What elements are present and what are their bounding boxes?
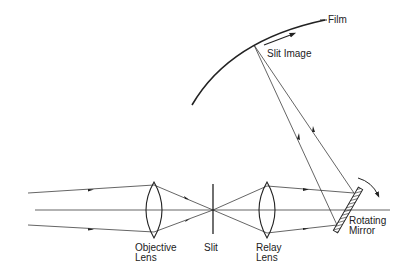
objective-lens-label-line2: Lens [135,253,157,263]
slit-image-label: Slit Image [267,49,311,59]
ray-arrowheads [88,126,315,231]
incoming-rays [28,45,354,233]
film-curve [192,20,325,105]
rotating-mirror-label-line2: Mirror [349,226,375,236]
slit-label: Slit [204,243,218,253]
film-label: Film [328,15,347,25]
slit-image-motion-arrow-icon [264,34,293,45]
relay-lens-label-line2: Lens [256,253,278,263]
optical-diagram [0,0,398,270]
